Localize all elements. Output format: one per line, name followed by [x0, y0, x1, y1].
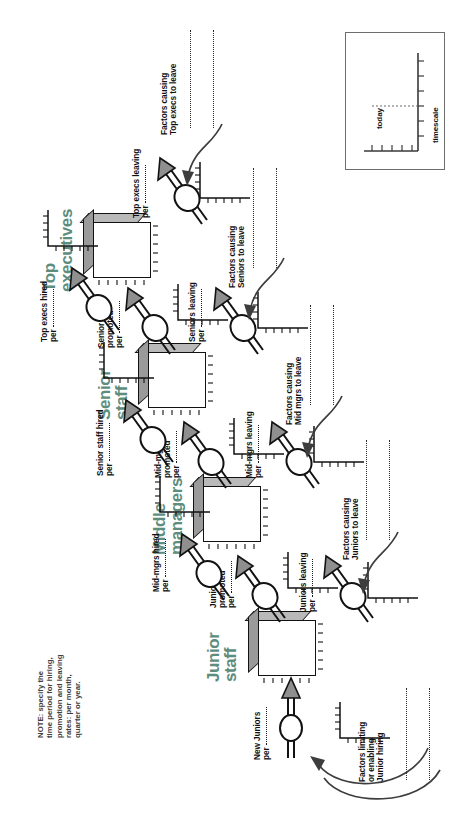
- flow-label-per: per: [104, 463, 114, 476]
- stock-label-junior-staff: Junior staff: [206, 632, 239, 682]
- flow-label-mid-mgrs-hired: Mid-mgrs hired per: [152, 533, 170, 592]
- factors-arrow-mid-mgrs-leave: [296, 392, 362, 472]
- factors-fill-line: [333, 305, 334, 405]
- factors-arrow-top-execs-leave: [176, 120, 242, 200]
- flow-label-per: per: [140, 205, 150, 218]
- flow-label-per: per: [160, 579, 170, 592]
- flow-label-top-execs-hired: Top execs hired per: [40, 281, 58, 342]
- legend-timescale-label: timescale: [432, 107, 441, 143]
- flow-label-senior-staff-hired: Senior staff hired per: [96, 410, 114, 476]
- flow-label-per: per: [196, 329, 206, 342]
- note-line-5: quarter or year.: [73, 654, 82, 738]
- flow-pipe-top-execs-hired: [56, 258, 146, 348]
- factors-fill-line: [253, 168, 254, 268]
- factors-fill-line: [276, 168, 277, 268]
- note-line-2: time period for hiring,: [45, 654, 54, 738]
- note-line-3: promotion and leaving: [55, 654, 64, 738]
- flow-label-per: per: [48, 329, 58, 342]
- factors-arrow-junior-hiring: [300, 742, 450, 819]
- legend-today-label: today: [376, 108, 385, 129]
- diagram-canvas: today timescale NOTE: specify the time p…: [0, 0, 459, 819]
- legend-box: today timescale: [345, 32, 445, 170]
- flow-label-per: per: [261, 747, 271, 760]
- flow-label-juniors-leaving: Juniors leaving per: [299, 553, 317, 612]
- flow-pipe-senior-staff-hired: [110, 390, 200, 480]
- stock-label-line-2: staff: [223, 632, 240, 682]
- flow-label-new-juniors: New Juniors per: [253, 707, 271, 760]
- note-line-1: NOTE: specify the: [36, 654, 45, 738]
- factors-fill-line: [213, 30, 214, 128]
- flow-label-top-execs-leaving: Top execs leaving per: [132, 149, 150, 218]
- rate-axis-top-execs-hired: [38, 202, 104, 258]
- legend-axes-icon: [346, 33, 444, 169]
- factors-fill-line: [366, 440, 367, 540]
- factors-fill-line: [190, 30, 191, 128]
- factors-arrow-seniors-leave: [238, 254, 304, 334]
- factors-fill-line: [310, 305, 311, 405]
- flow-label-seniors-leaving: Seniors leaving per: [188, 282, 206, 342]
- note-block: NOTE: specify the time period for hiring…: [36, 654, 83, 738]
- flow-pipe-mid-mgrs-hired: [166, 524, 256, 614]
- flow-label-per: per: [307, 599, 317, 612]
- note-line-4: rates: per month,: [64, 654, 73, 738]
- factors-fill-line: [389, 440, 390, 540]
- factors-arrow-juniors-leave: [352, 528, 418, 608]
- flow-label-per: per: [253, 465, 263, 478]
- flow-label-mid-mgrs-leaving: Mid-mgrs leaving per: [245, 411, 263, 478]
